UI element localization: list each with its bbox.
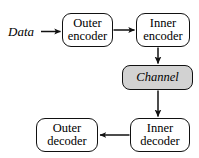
node-inner-decoder: Inner decoder xyxy=(130,118,190,152)
node-inner-encoder-line2: encoder xyxy=(143,30,183,43)
node-inner-decoder-line2: decoder xyxy=(140,135,180,148)
node-channel: Channel xyxy=(122,65,193,90)
data-input-label: Data xyxy=(8,24,34,40)
node-outer-encoder-line2: encoder xyxy=(68,30,108,43)
node-outer-decoder-line2: decoder xyxy=(47,135,87,148)
node-inner-encoder: Inner encoder xyxy=(136,13,190,47)
block-diagram: Data Outer encoder Inner encoder Channel… xyxy=(0,0,199,158)
node-outer-encoder: Outer encoder xyxy=(62,13,113,47)
node-channel-label: Channel xyxy=(136,71,178,84)
node-outer-decoder: Outer decoder xyxy=(36,118,98,152)
